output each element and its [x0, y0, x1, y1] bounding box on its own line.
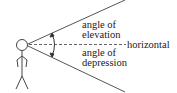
right-leg	[22, 76, 28, 89]
label-angle-of-depression-2: depression	[82, 57, 128, 68]
angle-arc	[50, 33, 55, 57]
left-leg	[16, 76, 22, 89]
angle-diagram: angle of elevation horizontal angle of d…	[0, 0, 177, 93]
stick-figure	[16, 40, 28, 90]
diagram-canvas: angle of elevation horizontal angle of d…	[0, 0, 177, 93]
label-horizontal: horizontal	[127, 39, 170, 50]
right-arm	[22, 56, 27, 67]
left-arm	[17, 56, 22, 67]
head	[17, 40, 28, 51]
label-angle-of-elevation-2: elevation	[82, 29, 121, 40]
